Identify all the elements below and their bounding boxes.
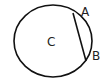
label-a: A bbox=[81, 5, 90, 19]
label-b: B bbox=[92, 49, 100, 63]
circle-chord-diagram: C A B bbox=[0, 0, 106, 83]
label-c: C bbox=[47, 35, 55, 49]
